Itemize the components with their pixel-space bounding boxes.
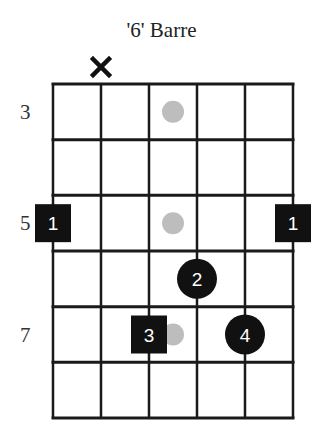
inlay-dot (162, 212, 184, 234)
fret-number-label: 5 (20, 211, 31, 235)
finger-number: 3 (144, 325, 155, 346)
inlay-dot (162, 101, 184, 123)
finger-marker-2: 2 (177, 259, 217, 299)
finger-marker-1: 1 (275, 204, 311, 242)
muted-string-x-icon (93, 59, 109, 75)
finger-number: 1 (48, 213, 59, 234)
finger-number: 4 (240, 325, 251, 346)
finger-marker-3: 3 (131, 316, 167, 354)
finger-marker-4: 4 (225, 315, 265, 355)
finger-number: 2 (192, 269, 203, 290)
fret-number-label: 3 (20, 100, 31, 124)
finger-marker-1: 1 (35, 204, 71, 242)
fret-number-label: 7 (20, 323, 31, 347)
finger-number: 1 (288, 213, 299, 234)
chord-diagram: 35711234 (0, 0, 323, 440)
